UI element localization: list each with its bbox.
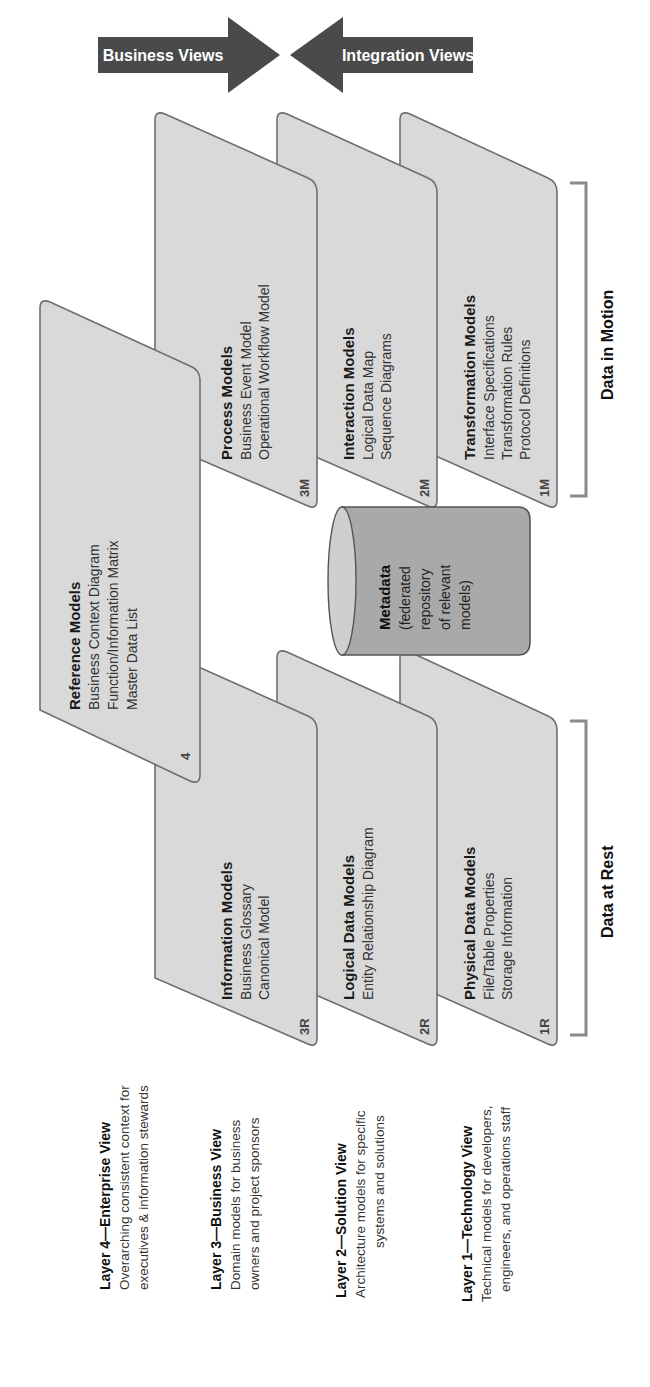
card-item: Master Data List	[124, 608, 140, 710]
card-code: 4	[178, 752, 193, 760]
layer-desc: engineers, and operations staff	[498, 1107, 513, 1292]
card-item: Business Glossary	[238, 884, 254, 1000]
layer-2-label: Layer 2—Solution View Architecture model…	[333, 1110, 387, 1298]
card-code: 1R	[537, 1018, 552, 1035]
card-title: Interaction Models	[340, 327, 357, 460]
card-item: File/Table Properties	[481, 872, 497, 1000]
layer-title: Layer 3—Business View	[208, 1129, 224, 1290]
card-title: Physical Data Models	[461, 847, 478, 1000]
layer-desc: Overarching consistent context for	[117, 1085, 132, 1290]
card-title: Reference Models	[66, 582, 83, 710]
integration-views-label: Integration Views	[342, 47, 474, 64]
layer-4-label: Layer 4—Enterprise View Overarching cons…	[97, 1085, 151, 1290]
metadata-title: Metadata	[376, 564, 393, 630]
card-code: 2M	[417, 479, 432, 497]
data-at-rest-label: Data at Rest	[599, 845, 616, 938]
card-item: Logical Data Map	[360, 351, 376, 460]
layer-1-label: Layer 1—Technology View Technical models…	[459, 1105, 513, 1302]
card-item: Canonical Model	[256, 896, 272, 1000]
layer-desc: owners and project sponsors	[247, 1117, 262, 1290]
layer-title: Layer 1—Technology View	[459, 1126, 475, 1302]
card-item: Business Context Diagram	[86, 544, 102, 710]
business-views-arrow: Business Views	[98, 17, 280, 93]
card-code: 1M	[537, 479, 552, 497]
card-code: 2R	[417, 1018, 432, 1035]
card-code: 3R	[297, 1018, 312, 1035]
metadata-desc-line: (federated	[397, 566, 413, 630]
integration-views-arrow: Integration Views	[290, 17, 474, 93]
card-title: Process Models	[218, 346, 235, 460]
card-item: Sequence Diagrams	[378, 333, 394, 460]
data-at-rest-bracket: Data at Rest	[570, 721, 616, 1035]
card-item: Transformation Rules	[499, 327, 515, 460]
card-item: Business Event Model	[238, 321, 254, 460]
card-item: Operational Workflow Model	[256, 284, 272, 460]
layer-desc: systems and solutions	[372, 1115, 387, 1248]
layer-desc: Architecture models for specific	[353, 1110, 368, 1298]
layer-desc: Technical models for developers,	[479, 1105, 494, 1302]
card-item: Entity Relationship Diagram	[360, 827, 376, 1000]
layer-title: Layer 2—Solution View	[333, 1143, 349, 1298]
card-item: Interface Specifications	[481, 315, 497, 460]
card-code: 3M	[297, 479, 312, 497]
data-in-motion-bracket: Data in Motion	[570, 183, 616, 496]
card-title: Transformation Models	[461, 295, 478, 460]
card-item: Function/Information Matrix	[105, 540, 121, 710]
metadata-desc-line: models)	[457, 580, 473, 630]
reference-models-card: Reference Models Business Context Diagra…	[40, 301, 200, 782]
layered-models-diagram: Business Views Integration Views Transfo…	[0, 0, 650, 1387]
metadata-desc-line: repository	[417, 569, 433, 630]
layer-desc: Domain models for business	[228, 1119, 243, 1290]
card-title: Logical Data Models	[340, 855, 357, 1000]
business-views-label: Business Views	[103, 47, 224, 64]
data-in-motion-label: Data in Motion	[599, 290, 616, 400]
layer-3-label: Layer 3—Business View Domain models for …	[208, 1117, 262, 1290]
card-title: Information Models	[218, 862, 235, 1000]
card-item: Storage Information	[499, 877, 515, 1000]
metadata-cylinder: Metadata (federated repository of releva…	[328, 507, 530, 655]
metadata-desc-line: of relevant	[437, 565, 453, 630]
layer-title: Layer 4—Enterprise View	[97, 1122, 113, 1290]
card-item: Protocol Definitions	[517, 339, 533, 460]
layer-desc: executives & information stewards	[136, 1085, 151, 1290]
